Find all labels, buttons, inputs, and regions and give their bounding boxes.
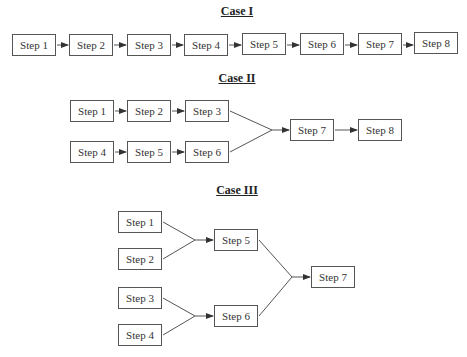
case-1-title: Case I: [221, 4, 253, 19]
case-2-step-8: Step 8: [358, 119, 402, 141]
case-2-step-7: Step 7: [290, 119, 334, 141]
case-2-step-5: Step 5: [127, 141, 171, 163]
case-2-step-1: Step 1: [70, 100, 114, 122]
case-1-step-8: Step 8: [414, 32, 458, 54]
case-3-step-6: Step 6: [214, 305, 258, 327]
case-2-step-2: Step 2: [127, 100, 171, 122]
case-2-title: Case II: [218, 71, 255, 86]
case-1-step-4: Step 4: [184, 34, 228, 56]
case-3-step-7: Step 7: [311, 266, 355, 288]
case-1-step-3: Step 3: [127, 34, 171, 56]
case-1-step-1: Step 1: [12, 34, 56, 56]
case-3-step-4: Step 4: [118, 324, 162, 346]
case-3-step-1: Step 1: [118, 211, 162, 233]
case-3-step-2: Step 2: [118, 248, 162, 270]
case-2-step-4: Step 4: [70, 141, 114, 163]
case-3-title: Case III: [216, 183, 258, 198]
case-1-step-2: Step 2: [69, 34, 113, 56]
case-1-step-7: Step 7: [358, 33, 402, 55]
case-3-step-5: Step 5: [214, 229, 258, 251]
case-2-step-3: Step 3: [185, 100, 229, 122]
case-3-step-3: Step 3: [118, 287, 162, 309]
case-1-step-5: Step 5: [242, 33, 286, 55]
case-2-step-6: Step 6: [185, 141, 229, 163]
case-1-step-6: Step 6: [300, 33, 344, 55]
